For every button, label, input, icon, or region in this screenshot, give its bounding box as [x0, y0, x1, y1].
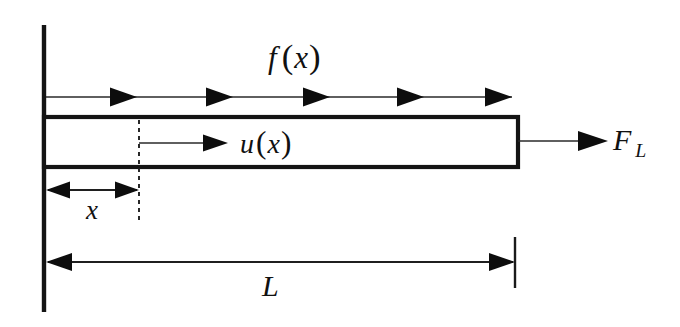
distributed-load-close-paren: ) [309, 37, 321, 76]
end-force-symbol: F [612, 123, 632, 156]
load-arrowhead-3 [303, 88, 330, 107]
end-force-arrow-group [518, 131, 608, 151]
load-arrowhead-1 [110, 88, 137, 107]
displacement-symbol: u [240, 128, 254, 159]
displacement-close-paren: ) [281, 125, 291, 160]
load-arrowhead-4 [397, 88, 424, 107]
length-dimension-arrowhead-right [489, 253, 515, 271]
x-dimension-arrowhead-right [115, 182, 139, 199]
figure-canvas: f(x) u(x) FL x L [0, 0, 680, 327]
load-arrowhead-5 [485, 88, 512, 107]
distributed-load-label: f(x) [268, 37, 321, 76]
displacement-arg: x [266, 128, 280, 159]
distributed-load-arg: x [293, 40, 308, 75]
displacement-open-paren: ( [256, 125, 266, 160]
length-label: L [261, 269, 279, 302]
load-arrowhead-2 [206, 88, 233, 107]
coordinate-label: x [85, 195, 98, 225]
distributed-load-symbol: f [268, 40, 281, 75]
axially-loaded-bar-diagram: f(x) u(x) FL x L [0, 0, 680, 327]
end-force-subscript: L [634, 139, 646, 161]
distributed-load-group [46, 88, 512, 107]
length-dimension-group [46, 237, 515, 288]
distributed-load-open-paren: ( [282, 37, 294, 76]
length-dimension-arrowhead-left [46, 253, 72, 271]
x-dimension-arrowhead-left [46, 182, 70, 199]
end-force-label: FL [612, 123, 646, 161]
displacement-label: u(x) [240, 125, 291, 160]
end-force-arrowhead [578, 131, 608, 151]
